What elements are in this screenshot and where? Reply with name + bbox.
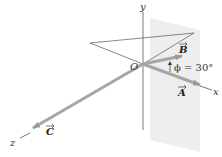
vector-c <box>33 64 143 128</box>
x-axis <box>200 86 212 90</box>
y-axis-label: y <box>139 1 146 12</box>
x-axis-label: x <box>213 86 219 97</box>
vector-diagram: y x z O A B C ϕ = 30° <box>0 0 222 157</box>
vector-b-label: B <box>178 44 187 55</box>
vector-c-label: C <box>46 126 54 137</box>
z-axis-label: z <box>9 137 16 148</box>
origin-label: O <box>130 61 138 72</box>
angle-label: ϕ = 30° <box>174 62 213 73</box>
z-axis <box>20 133 30 138</box>
xy-plane <box>150 18 200 152</box>
